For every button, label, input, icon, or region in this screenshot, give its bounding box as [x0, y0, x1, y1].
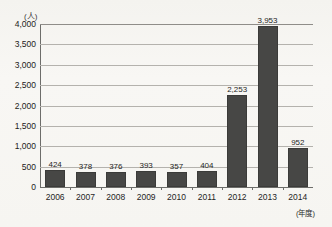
- x-axis-tickmark: [222, 187, 223, 190]
- bar-item: 3,953: [253, 12, 283, 187]
- y-axis-tick-label: 0: [2, 182, 36, 192]
- bar-item: 952: [283, 134, 313, 187]
- x-axis-tickmark: [101, 187, 102, 190]
- bar-item: 376: [101, 158, 131, 187]
- bar-item: 404: [192, 157, 222, 187]
- bar: [76, 172, 96, 187]
- x-axis-tickmark: [131, 187, 132, 190]
- x-axis-tickmark: [283, 187, 284, 190]
- bar-item: 378: [71, 158, 101, 187]
- x-axis-tick-label: 2014: [280, 192, 316, 202]
- y-axis-tick-label: 3,000: [2, 60, 36, 70]
- bar: [258, 26, 278, 187]
- chart-title: [0, 0, 332, 2]
- bar-value-label: 376: [101, 162, 131, 171]
- x-axis-tickmark: [70, 187, 71, 190]
- bar-item: 393: [131, 157, 161, 187]
- y-axis-tick-label: 500: [2, 162, 36, 172]
- bar: [136, 171, 156, 187]
- bar-value-label: 393: [131, 161, 161, 170]
- bar: [288, 148, 308, 187]
- bar: [45, 170, 65, 187]
- y-axis-tick-label: 1,500: [2, 121, 36, 131]
- x-axis-line: [40, 187, 313, 188]
- bar: [167, 172, 187, 187]
- bar-value-label: 952: [283, 138, 313, 147]
- bar: [227, 95, 247, 187]
- bar-value-label: 424: [40, 160, 70, 169]
- bar-item: 424: [40, 156, 70, 187]
- plot-area: 4243783763933574042,2533,953952: [40, 24, 313, 188]
- bar: [197, 171, 217, 187]
- x-axis-tickmark: [161, 187, 162, 190]
- bar: [106, 172, 126, 187]
- bar-item: 357: [162, 158, 192, 187]
- y-axis-tick-label: 3,500: [2, 39, 36, 49]
- y-axis-tick-label: 2,000: [2, 101, 36, 111]
- bar-value-label: 2,253: [222, 85, 252, 94]
- bar-value-label: 3,953: [253, 16, 283, 25]
- bar-value-label: 404: [192, 161, 222, 170]
- bar-value-label: 357: [162, 162, 192, 171]
- y-axis-tick-label: 2,500: [2, 80, 36, 90]
- x-axis-tickmark: [252, 187, 253, 190]
- x-axis-unit-label: (年度): [296, 207, 315, 218]
- bar-item: 2,253: [222, 81, 252, 187]
- bar-chart: (人) 4243783763933574042,2533,953952 0500…: [0, 0, 332, 227]
- y-axis-tick-label: 1,000: [2, 141, 36, 151]
- bar-value-label: 378: [71, 162, 101, 171]
- y-axis-tick-label: 4,000: [2, 19, 36, 29]
- x-axis-tickmark: [192, 187, 193, 190]
